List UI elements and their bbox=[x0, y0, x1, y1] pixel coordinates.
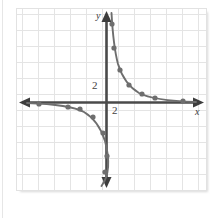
data-point bbox=[109, 21, 114, 26]
data-point bbox=[180, 98, 185, 103]
data-point bbox=[65, 104, 70, 109]
y-axis-label: y bbox=[96, 11, 100, 21]
data-point bbox=[117, 67, 122, 72]
data-point bbox=[36, 101, 41, 106]
page-edge-artifact bbox=[2, 0, 3, 218]
curve-branch-upper-right bbox=[112, 13, 197, 102]
graph-figure: + y x 2 2 bbox=[0, 0, 216, 218]
graph-canvas bbox=[17, 9, 206, 190]
data-point bbox=[77, 106, 82, 111]
data-point-markers bbox=[36, 21, 185, 174]
curve-branch-lower-left bbox=[27, 103, 108, 186]
data-point bbox=[139, 91, 144, 96]
plot-area: + bbox=[16, 8, 207, 191]
data-point bbox=[100, 130, 105, 135]
y-axis-tick-label-2: 2 bbox=[92, 80, 98, 91]
data-point bbox=[126, 82, 131, 87]
data-point bbox=[102, 169, 107, 174]
y-axis bbox=[102, 11, 112, 188]
x-axis-tick-label-2: 2 bbox=[112, 105, 118, 116]
data-point bbox=[90, 114, 95, 119]
data-point bbox=[152, 95, 157, 100]
data-point bbox=[104, 153, 109, 158]
x-axis-label: x bbox=[195, 107, 199, 117]
data-point bbox=[111, 45, 116, 50]
